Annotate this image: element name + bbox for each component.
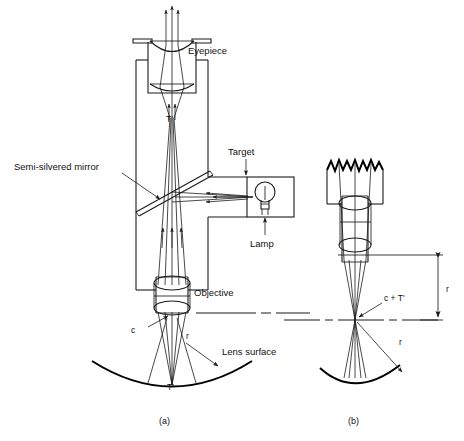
panel-b: c + T' r r (b) bbox=[284, 160, 449, 426]
figure-canvas: Eyepiece Semi-silvered mirror Target Lam… bbox=[0, 0, 464, 441]
optical-diagram-figure: Eyepiece Semi-silvered mirror Target Lam… bbox=[0, 0, 464, 441]
label-c-plus-t-prime: c + T' bbox=[384, 293, 405, 303]
label-r-marker-a: r bbox=[186, 331, 189, 341]
telescope-tube bbox=[136, 60, 247, 290]
ray-bundle-exit bbox=[166, 6, 178, 45]
label-lamp: Lamp bbox=[250, 238, 274, 249]
c-plus-t-prime-leader bbox=[359, 303, 382, 317]
illumination-beam bbox=[172, 192, 253, 202]
label-t-prime-surface: T' bbox=[167, 382, 174, 392]
ray-bundle-tube-b bbox=[339, 164, 371, 260]
panel-caption-b: (b) bbox=[348, 416, 359, 426]
leader-lines-a bbox=[122, 159, 265, 366]
ray-bundle-to-focus-b bbox=[344, 260, 366, 320]
ray-bundle-objective-to-surface bbox=[158, 312, 186, 385]
label-eyepiece: Eyepiece bbox=[188, 45, 227, 56]
label-r-radius-b: r bbox=[399, 337, 402, 347]
label-t-prime-tube: T' bbox=[166, 114, 173, 124]
panel-caption-a: (a) bbox=[159, 416, 170, 426]
panel-a: Eyepiece Semi-silvered mirror Target Lam… bbox=[14, 6, 310, 426]
label-target: Target bbox=[228, 146, 255, 157]
ray-bundle-eyepiece bbox=[160, 45, 184, 120]
label-semi-silvered-mirror: Semi-silvered mirror bbox=[14, 161, 99, 172]
label-objective: Objective bbox=[194, 287, 234, 298]
label-lens-surface: Lens surface bbox=[222, 346, 276, 357]
label-r-vertical: r bbox=[446, 284, 449, 294]
label-c-marker: c bbox=[131, 325, 136, 335]
lamp-housing bbox=[247, 177, 294, 217]
